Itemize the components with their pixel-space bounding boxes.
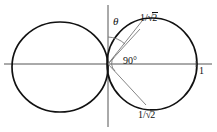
polar-curve-group [12,18,197,112]
upper-radius-label: 1/√2 [139,12,158,23]
theta-arc [108,37,125,44]
radical-upper: 1/√2 [139,12,158,23]
radical-upper-numerator: 1/ [140,12,148,23]
polar-figure: θ 1/√2 90° 1/√2 1 [0,0,217,132]
right-angle-label: 90° [123,56,137,66]
left-circle-curve [12,22,108,112]
lower-radius-label: 1/√2 [137,109,156,120]
radical-lower-numerator: 1/ [138,109,146,120]
radical-lower: 1/√2 [137,109,156,120]
radical-lower-radicand: 2 [150,109,156,120]
theta-label: θ [113,16,118,27]
x-axis-one-label: 1 [199,66,204,76]
radical-upper-radicand: 2 [152,12,158,23]
figure-canvas [0,0,217,132]
